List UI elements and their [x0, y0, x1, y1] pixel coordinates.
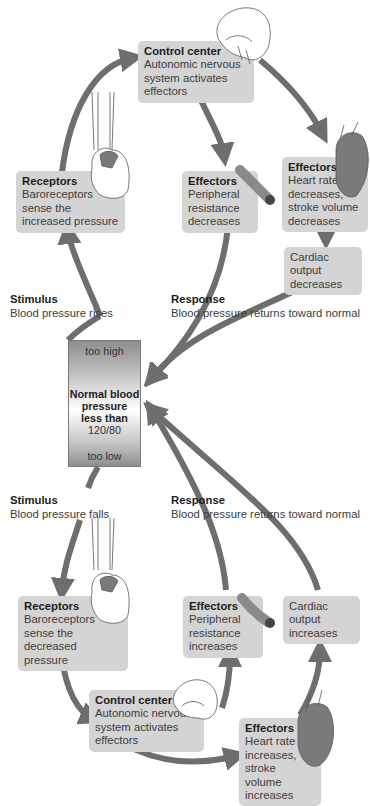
- effectors-title: Effectors: [188, 175, 252, 188]
- stimulus-title: Stimulus: [10, 493, 109, 507]
- arrow-center-to-stimulus: [88, 467, 98, 488]
- response-title: Response: [171, 292, 360, 306]
- stimulus-upper: Stimulus Blood pressure rises: [10, 292, 113, 320]
- effectors-title: Effectors: [288, 161, 362, 174]
- receptors-upper: Receptors Baroreceptors sense the increa…: [16, 171, 125, 233]
- arrow-control-to-vessel: [198, 94, 224, 155]
- response-text: Blood pressure returns toward normal: [171, 306, 360, 320]
- effectors-title: Effectors: [245, 722, 315, 735]
- arrow-heart-to-cardiac-low: [300, 650, 320, 715]
- receptors-title: Receptors: [22, 175, 119, 188]
- normal-bp-label: Normal blood pressure less than 120/80: [69, 388, 140, 436]
- too-high-label: too high: [69, 345, 140, 357]
- control-center-text: Autonomic nervous system activates effec…: [144, 58, 248, 98]
- effectors-heart-upper: Effectors Heart rate decreases, stroke v…: [282, 157, 368, 232]
- stimulus-text: Blood pressure falls: [10, 507, 109, 521]
- effectors-text: Peripheral resistance increases: [189, 613, 257, 653]
- arrow-brain-to-vessel-low: [222, 655, 230, 708]
- response-lower: Response Blood pressure returns toward n…: [171, 493, 360, 521]
- normal-bp-value: 120/80: [88, 424, 121, 436]
- receptors-text: Baroreceptors sense the increased pressu…: [22, 188, 119, 228]
- effectors-text: Heart rate increases, stroke volume incr…: [245, 735, 315, 802]
- control-center-lower: Control center Autonomic nervous system …: [89, 690, 204, 752]
- cardiac-output-lower: Cardiac output increases: [283, 596, 360, 644]
- receptors-text: Baroreceptors sense the decreased pressu…: [24, 613, 122, 667]
- cardiac-output-upper: Cardiac output decreases: [284, 247, 362, 295]
- cardiac-output-text: Cardiac output decreases: [290, 251, 356, 291]
- control-center-title: Control center: [144, 45, 248, 58]
- normal-bp-title: Normal blood pressure less than: [69, 388, 140, 424]
- stimulus-title: Stimulus: [10, 292, 113, 306]
- control-center-upper: Control center Autonomic nervous system …: [138, 41, 254, 103]
- effectors-text: Peripheral resistance decreases: [188, 188, 252, 228]
- cardiac-output-text: Cardiac output increases: [289, 600, 354, 640]
- arrow-brain-to-heart: [260, 60, 322, 133]
- arrow-receptors-to-control: [62, 58, 132, 172]
- control-center-text: Autonomic nervous system activates effec…: [95, 707, 198, 747]
- arrow-stimulus-to-receptors-low: [62, 520, 80, 590]
- effectors-title: Effectors: [189, 600, 257, 613]
- response-upper: Response Blood pressure returns toward n…: [171, 292, 360, 320]
- effectors-vessel-lower: Effectors Peripheral resistance increase…: [183, 596, 263, 658]
- too-low-label: too low: [69, 450, 140, 462]
- control-center-title: Control center: [95, 694, 198, 707]
- receptors-title: Receptors: [24, 600, 122, 613]
- response-title: Response: [171, 493, 360, 507]
- effectors-vessel-upper: Effectors Peripheral resistance decrease…: [182, 171, 258, 233]
- response-text: Blood pressure returns toward normal: [171, 507, 360, 521]
- effectors-heart-lower: Effectors Heart rate increases, stroke v…: [239, 718, 321, 806]
- receptors-lower: Receptors Baroreceptors sense the decrea…: [18, 596, 128, 671]
- normal-blood-pressure-box: too high Normal blood pressure less than…: [68, 340, 141, 467]
- stimulus-text: Blood pressure rises: [10, 306, 113, 320]
- stimulus-lower: Stimulus Blood pressure falls: [10, 493, 109, 521]
- effectors-text: Heart rate decreases, stroke volume decr…: [288, 174, 362, 228]
